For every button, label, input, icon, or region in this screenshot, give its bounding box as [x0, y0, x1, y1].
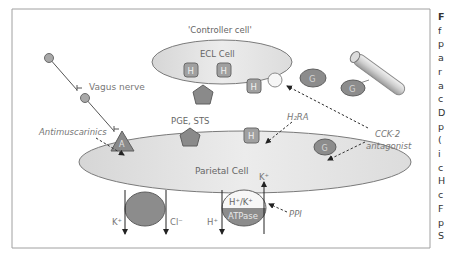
gastrin-molecule-free: G	[300, 69, 326, 87]
cck2-label: CCK-2	[375, 129, 400, 139]
h-ion: H⁺	[207, 217, 218, 227]
pump-label-top: H⁺/K⁺	[229, 197, 253, 207]
caption-fragment: p	[438, 216, 451, 230]
caption-fragment: c	[438, 188, 451, 202]
caption-fragment: a	[438, 79, 451, 93]
parietal-cell-label: Parietal Cell	[195, 166, 249, 176]
h2ra-label: H₂RA	[287, 112, 309, 122]
caption-fragment: H	[438, 174, 451, 188]
svg-text:A: A	[119, 140, 125, 149]
svg-text:G: G	[349, 84, 356, 94]
caption-fragment: S	[438, 229, 451, 243]
cck2-antagonist-label: antagonist	[366, 141, 412, 151]
caption-fragment: D	[438, 106, 451, 120]
histamine-release: H	[247, 79, 261, 93]
prostaglandin-receptor	[180, 128, 200, 146]
cck2-receptor-ecl	[268, 73, 282, 87]
caption-fragment: p	[438, 37, 451, 51]
caption-fragment: (	[438, 133, 451, 147]
k-ion-right: K⁺	[259, 172, 269, 182]
neuron-body-2	[81, 94, 90, 103]
pge-sts-label: PGE, STS	[171, 116, 209, 126]
antimuscarinics-label: Antimuscarinics	[38, 127, 107, 137]
svg-text:H: H	[221, 66, 227, 76]
caption-fragment: i	[438, 147, 451, 161]
histamine-granule-2: H	[217, 63, 231, 77]
cck2-receptor-parietal: G	[314, 139, 336, 155]
caption-fragment: a	[438, 51, 451, 65]
svg-text:H: H	[188, 66, 194, 76]
caption-fragment: c	[438, 161, 451, 175]
k-ion-left: K⁺	[112, 217, 122, 227]
svg-text:H: H	[248, 131, 254, 141]
pump-label-bottom: ATPase	[228, 211, 258, 221]
gastric-acid-secretion-diagram: Vagus nerve 'Controller cell' ECL Cell H…	[0, 0, 451, 258]
sts-receptor-ecl	[193, 85, 213, 104]
caption-fragment: F	[438, 202, 451, 216]
ppi-label: PPI	[289, 209, 302, 219]
caption-fragment-column: F f p a r a c D p ( i c H c F p S	[438, 10, 451, 243]
vagus-nerve-label: Vagus nerve	[89, 82, 145, 92]
caption-fragment: p	[438, 120, 451, 134]
controller-cell-label: 'Controller cell'	[188, 25, 252, 35]
svg-text:H: H	[251, 82, 257, 92]
h2-receptor: H	[244, 128, 259, 143]
ecl-cell-label: ECL Cell	[200, 49, 235, 59]
svg-text:G: G	[309, 74, 316, 84]
proton-pump: H⁺/K⁺ ATPase	[222, 190, 266, 228]
caption-fragment: f	[438, 24, 451, 38]
histamine-granule-1: H	[184, 63, 198, 77]
k-cl-channel	[125, 192, 165, 226]
vagus-nerve	[45, 54, 120, 133]
caption-fragment: r	[438, 65, 451, 79]
cl-ion: Cl⁻	[170, 217, 183, 227]
neuron-body-1	[45, 54, 54, 63]
caption-fragment: c	[438, 92, 451, 106]
ppi-arrow	[269, 204, 287, 212]
gastrin-molecule-vessel: G	[341, 80, 365, 96]
caption-fragment: F	[438, 10, 451, 24]
svg-text:G: G	[322, 144, 328, 153]
